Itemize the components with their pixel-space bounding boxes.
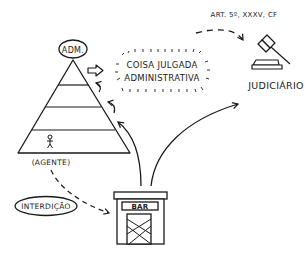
coisa-julgada-line1: COISA JULGADA: [126, 60, 197, 70]
block-arrow-icon: [88, 65, 103, 76]
pyramid-icon: [18, 60, 130, 153]
arrow-bar-to-pyramid: [118, 122, 141, 186]
bar-sign-label: BAR: [131, 203, 148, 211]
arrow-bar-to-judiciario: [151, 104, 238, 186]
agente-label: (AGENTE): [32, 158, 71, 167]
adm-label: ADM.: [62, 46, 84, 55]
coisa-julgada-line2: ADMINISTRATIVA: [124, 73, 199, 83]
article-label: ART. 5º, XXXV, CF: [211, 11, 278, 19]
escalation-arrow: [108, 102, 115, 113]
escalation-arrow: [96, 83, 100, 92]
interdicao-node: INTERDIÇÃO: [15, 197, 77, 216]
diagram-canvas: ADM. (AGENTE): [0, 0, 307, 262]
judiciario-label: JUDICIÁRIO: [247, 80, 304, 91]
closed-bar-icon: [114, 192, 167, 244]
adm-node: ADM.: [59, 40, 87, 58]
stick-figure-icon: [47, 135, 53, 148]
interdicao-label: INTERDIÇÃO: [21, 202, 70, 211]
dashed-arrow-to-judiciario: [196, 30, 243, 40]
gavel-icon: [252, 35, 290, 69]
radiance-ticks: [115, 49, 210, 92]
coisa-julgada-node: COISA JULGADA ADMINISTRATIVA: [115, 49, 210, 92]
